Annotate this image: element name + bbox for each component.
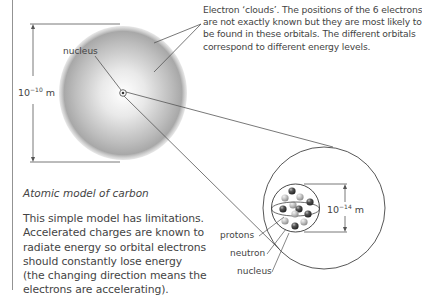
- neutron: [296, 193, 303, 200]
- figure-caption: Atomic model of carbon: [23, 187, 149, 199]
- nucleus-detail-label: nucleus: [237, 266, 272, 276]
- nucleus-detail: [272, 184, 320, 232]
- atom-size-label: 10−10 m: [18, 86, 55, 98]
- proton: [291, 222, 298, 229]
- neutron: [291, 210, 298, 217]
- protons-label: protons: [220, 230, 254, 240]
- proton: [306, 198, 313, 205]
- proton: [304, 210, 311, 217]
- nucleus-label: nucleus: [63, 46, 98, 56]
- neutron-label: neutron: [230, 248, 265, 258]
- description-text: This simple model has limitations. Accel…: [23, 212, 206, 298]
- proton: [279, 205, 286, 212]
- nucleus-size-label: 10−14 m: [327, 203, 364, 215]
- neutron: [300, 218, 307, 225]
- neutron: [281, 194, 288, 201]
- electron-cloud-callout: Electron ‘clouds’. The positions of the …: [203, 4, 422, 53]
- proton: [288, 187, 295, 194]
